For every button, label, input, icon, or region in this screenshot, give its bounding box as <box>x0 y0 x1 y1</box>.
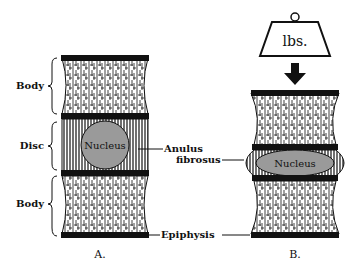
epiphysis-b <box>251 232 339 238</box>
vertebral-body-bottom <box>62 176 148 234</box>
label-fibrosus: fibrosus <box>176 154 221 165</box>
label-disc: Disc <box>20 140 44 151</box>
label-epiphysis: Epiphysis <box>161 229 215 240</box>
brace-icon <box>48 176 57 236</box>
endplate <box>61 170 149 176</box>
arrow-down-icon <box>284 63 306 85</box>
epiphysis-a <box>61 232 149 238</box>
panel-a: Nucleus Body Disc Body A. <box>16 55 149 261</box>
label-anulus: Anulus <box>163 143 203 154</box>
caption-a: A. <box>93 248 105 261</box>
panel-b: lbs. Nucleus B. <box>246 13 344 261</box>
weight-handle-icon <box>291 13 299 21</box>
spine-load-diagram: Nucleus Body Disc Body A. Anulus fibrosu… <box>0 0 361 271</box>
vertebral-body-top-b <box>251 93 339 145</box>
endplate <box>251 90 339 96</box>
brace-icon <box>48 122 57 170</box>
nucleus-label-b: Nucleus <box>274 158 315 169</box>
vertebral-body-bottom-b <box>251 181 339 234</box>
label-body-top: Body <box>16 80 45 91</box>
endplate <box>252 144 338 150</box>
caption-b: B. <box>289 248 301 261</box>
endplate <box>252 175 338 181</box>
brace-icon <box>48 58 57 114</box>
nucleus-label-a: Nucleus <box>84 140 125 151</box>
vertebral-body-top <box>62 58 148 114</box>
endplate <box>61 55 149 61</box>
weight-label: lbs. <box>282 33 307 49</box>
label-body-bottom: Body <box>16 198 45 209</box>
endplate <box>61 113 149 119</box>
